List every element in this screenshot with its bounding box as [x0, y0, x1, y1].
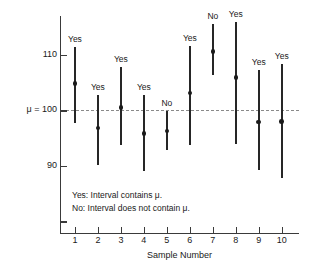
- interval-label: No: [152, 99, 182, 108]
- interval-label: Yes: [267, 52, 297, 61]
- interval-center-point: [211, 49, 216, 54]
- y-tick-label-90: 90: [0, 161, 57, 171]
- x-tick-9: [259, 227, 260, 233]
- interval-bar: [235, 22, 237, 145]
- x-tick-label-1: 1: [63, 236, 87, 245]
- interval-label: Yes: [60, 35, 90, 44]
- y-tick-label-110: 110: [0, 50, 57, 60]
- interval-center-point: [73, 81, 78, 86]
- x-tick-label-6: 6: [178, 236, 202, 245]
- y-tick-label-text: 90: [47, 161, 57, 170]
- chart-legend: Yes: Interval contains μ. No: Interval d…: [72, 189, 190, 214]
- y-tick-label-100: μ = 100: [0, 105, 57, 115]
- x-axis-title: Sample Number: [60, 250, 299, 260]
- x-tick-label-2: 2: [86, 236, 110, 245]
- x-axis: [60, 233, 299, 234]
- confidence-interval-chart: 110μ = 10090 12345678910 YesYesYesYesNoY…: [0, 0, 317, 270]
- interval-center-point: [256, 120, 261, 125]
- interval-label: Yes: [221, 10, 251, 19]
- x-tick-label-5: 5: [155, 236, 179, 245]
- interval-label: Yes: [129, 83, 159, 92]
- x-tick-label-8: 8: [224, 236, 248, 245]
- interval-bar: [189, 46, 191, 145]
- legend-no-row: No: Interval does not contain μ.: [72, 202, 190, 215]
- interval-center-point: [279, 119, 284, 124]
- x-tick-label-3: 3: [109, 236, 133, 245]
- y-tick-label-text: 110: [43, 50, 57, 59]
- x-tick-1: [75, 227, 76, 233]
- x-tick-label-9: 9: [247, 236, 271, 245]
- x-tick-3: [121, 227, 122, 233]
- x-tick-label-4: 4: [132, 236, 156, 245]
- interval-center-point: [142, 131, 147, 136]
- x-tick-6: [190, 227, 191, 233]
- interval-center-point: [165, 129, 170, 134]
- x-tick-7: [213, 227, 214, 233]
- interval-label: Yes: [106, 55, 136, 64]
- x-tick-5: [167, 227, 168, 233]
- x-tick-4: [144, 227, 145, 233]
- y-tick-100: [61, 110, 67, 111]
- interval-center-point: [188, 91, 193, 96]
- y-tick-110: [61, 55, 67, 56]
- legend-yes-row: Yes: Interval contains μ.: [72, 189, 190, 202]
- x-tick-10: [282, 227, 283, 233]
- x-tick-2: [98, 227, 99, 233]
- y-tick-90: [61, 166, 67, 167]
- y-tick-label-text: μ = 100: [27, 105, 57, 114]
- interval-center-point: [96, 126, 101, 131]
- y-axis: [60, 16, 61, 233]
- interval-label: Yes: [83, 83, 113, 92]
- y-tick-minor: [61, 221, 67, 222]
- x-tick-label-7: 7: [201, 236, 225, 245]
- x-tick-label-10: 10: [270, 236, 294, 245]
- interval-label: Yes: [175, 34, 205, 43]
- interval-center-point: [234, 75, 239, 80]
- x-tick-8: [236, 227, 237, 233]
- interval-center-point: [119, 105, 124, 110]
